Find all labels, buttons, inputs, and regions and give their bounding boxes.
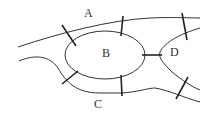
label-region-c: C bbox=[94, 97, 102, 111]
bridge-b-c-right bbox=[121, 75, 122, 96]
label-region-b: B bbox=[102, 46, 110, 60]
bridge-a-b-left bbox=[62, 25, 76, 46]
label-region-a: A bbox=[84, 6, 93, 20]
bank-c-lower bbox=[19, 57, 200, 102]
bridge-a-d bbox=[182, 13, 187, 40]
bank-d bbox=[160, 28, 200, 90]
bridges-diagram: A B C D bbox=[0, 0, 213, 114]
bank-a-upper bbox=[18, 18, 200, 47]
label-region-d: D bbox=[170, 45, 179, 59]
